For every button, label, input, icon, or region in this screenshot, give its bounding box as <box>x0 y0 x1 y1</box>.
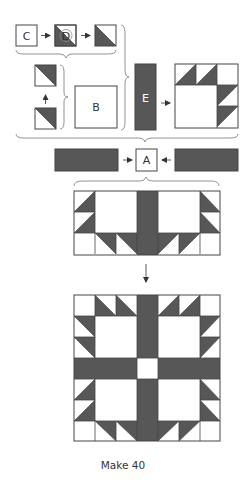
piece-d-label: D <box>62 30 70 43</box>
half-block-row <box>74 191 220 255</box>
piece-d-on-c: D <box>55 25 76 46</box>
brace-above-half-block <box>74 177 219 186</box>
hst-bottom <box>35 108 56 129</box>
brace-right-hst <box>60 65 68 129</box>
step-1-group: C D <box>16 25 116 58</box>
assembly-diagram: C D <box>0 0 246 484</box>
piece-a: A <box>136 149 157 171</box>
caption: Make 40 <box>0 459 246 471</box>
brace-under-row1 <box>16 50 116 58</box>
hst-top <box>35 65 56 86</box>
brace-right-big <box>121 25 129 130</box>
piece-e-label: E <box>142 92 149 105</box>
piece-e: E <box>135 64 156 130</box>
sashing-strip-right <box>175 149 238 171</box>
brace-under-top-section <box>16 134 238 142</box>
piece-b: B <box>75 86 117 128</box>
assembled-corner-unit <box>175 64 238 128</box>
piece-a-label: A <box>143 154 151 167</box>
finished-block <box>74 295 220 441</box>
sashing-strip-left <box>55 149 118 171</box>
half-square-triangle-unit <box>95 25 116 46</box>
piece-b-label: B <box>92 101 100 114</box>
step-5-group: A <box>55 149 238 186</box>
piece-c: C <box>16 25 37 46</box>
piece-c-label: C <box>23 30 31 43</box>
